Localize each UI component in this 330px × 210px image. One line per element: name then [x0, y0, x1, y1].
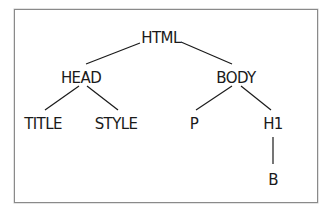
edge-body-h1 [241, 86, 271, 110]
edge-html-body [181, 42, 232, 64]
edge-head-title [45, 86, 79, 110]
node-h1: H1 [263, 116, 283, 132]
edge-body-p [196, 86, 232, 110]
node-body: BODY [216, 70, 255, 86]
edge-html-head [86, 43, 140, 64]
node-p: P [190, 116, 198, 132]
node-style: STYLE [95, 116, 138, 132]
node-html: HTML [141, 30, 180, 46]
node-title: TITLE [24, 116, 62, 132]
node-head: HEAD [61, 70, 101, 86]
node-b: B [268, 172, 278, 188]
edge-head-style [87, 86, 118, 110]
